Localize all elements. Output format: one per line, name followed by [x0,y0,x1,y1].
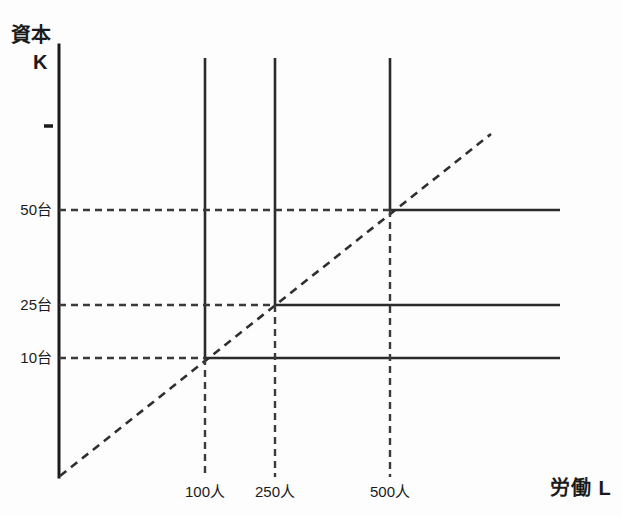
y-axis-title-capital: 資本 [11,25,51,45]
y-tick-label-50: 50台 [0,202,52,217]
x-axis-title-labor: 労働 L [550,478,612,498]
isoquant-500-50-group [59,58,560,477]
x-tick-label-100: 100人 [165,484,245,499]
isoquant-250-25-group [59,58,560,477]
isoquant-chart-svg [0,0,622,516]
y-axis-title-symbol: K [33,52,47,72]
y-tick-label-25: 25台 [0,297,52,312]
axes-group [44,45,59,477]
x-tick-label-500: 500人 [350,484,430,499]
chart-container: 資本 K 50台 25台 10台 100人 250人 500人 労働 L [0,0,622,516]
x-tick-label-250: 250人 [235,484,315,499]
isoquant-100-10-group [59,58,560,477]
y-tick-label-10: 10台 [0,350,52,365]
